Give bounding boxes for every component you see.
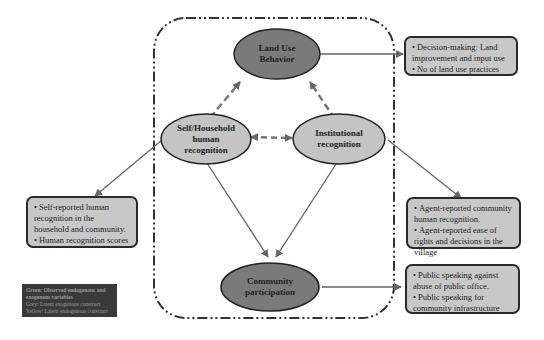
box-institutional-indicators: Agent-reported community human recogniti… xyxy=(406,197,521,249)
label-line: participation xyxy=(245,287,295,298)
label-line: Behavior xyxy=(260,54,295,65)
legend: Green: Observed endogenous and exogenous… xyxy=(22,284,117,317)
legend-line: Yellow: Latent endogenous construct xyxy=(26,308,113,315)
indicator-item: Human recognition scores xyxy=(34,235,130,246)
box-self-indicators: Self-reported human recognition in the h… xyxy=(26,196,138,248)
label-line: Institutional xyxy=(315,128,363,139)
edge-self-to-community xyxy=(205,160,268,257)
box-land-use-indicators: Decision-making: Land improvement and in… xyxy=(404,36,518,76)
indicator-item: Self-reported human recognition in the h… xyxy=(34,202,130,235)
indicator-item: Public speaking for community infrastruc… xyxy=(413,292,512,314)
legend-line: Green: Observed endogenous and xyxy=(26,287,113,294)
legend-line: exogenous variables xyxy=(26,294,113,301)
label-land-use: Land Use Behavior xyxy=(234,38,320,70)
label-self-household: Self/Household human recognition xyxy=(161,120,251,158)
edge-inst-to-box xyxy=(388,140,461,198)
label-line: Community xyxy=(247,276,293,287)
edge-self-to-box xyxy=(95,140,162,196)
label-line: recognition xyxy=(317,139,360,150)
label-community: Community participation xyxy=(221,272,319,302)
label-institutional: Institutional recognition xyxy=(293,125,385,153)
label-line: Self/Household xyxy=(177,123,235,134)
label-line: human xyxy=(192,134,219,145)
indicator-item: Decision-making: Land improvement and in… xyxy=(412,42,510,64)
edge-inst-to-community xyxy=(276,161,338,257)
indicator-item: Agent-reported community human recogniti… xyxy=(414,203,513,225)
indicator-item: Agent-reported ease of rights and decisi… xyxy=(414,225,513,258)
indicator-item: Public speaking against abuse of public … xyxy=(413,270,512,292)
box-community-indicators: Public speaking against abuse of public … xyxy=(405,264,520,314)
edge-self-inst xyxy=(251,137,292,138)
label-line: recognition xyxy=(184,145,227,156)
legend-line: Grey: Latent exogenous construct xyxy=(26,301,113,308)
indicator-item: No of land use practices xyxy=(412,64,510,75)
label-line: Land Use xyxy=(259,43,296,54)
